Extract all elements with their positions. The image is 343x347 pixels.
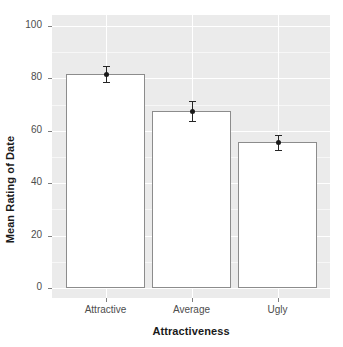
y-tick-mark (48, 288, 52, 289)
y-tick-mark (48, 236, 52, 237)
mean-point-marker (104, 72, 109, 77)
x-tick-label-ugly: Ugly (238, 304, 318, 315)
x-tick-mark (278, 298, 279, 302)
y-tick-label: 20 (16, 229, 42, 240)
x-tick-mark (106, 298, 107, 302)
bar-average[interactable] (152, 111, 231, 288)
error-bar-cap-lower (103, 82, 110, 83)
y-tick-mark (48, 183, 52, 184)
y-tick-label: 80 (16, 71, 42, 82)
y-axis-title-label: Mean Rating of Date (4, 136, 16, 244)
y-axis-title: Mean Rating of Date (0, 0, 20, 347)
bar-attractive[interactable] (66, 74, 145, 288)
y-tick-mark (48, 26, 52, 27)
x-tick-mark (192, 298, 193, 302)
plot-panel (52, 15, 330, 298)
y-tick-label: 0 (16, 281, 42, 292)
y-tick-mark (48, 78, 52, 79)
x-tick-label-attractive: Attractive (66, 304, 146, 315)
y-tick-label: 60 (16, 124, 42, 135)
error-bar-cap-upper (103, 66, 110, 67)
error-bar-cap-lower (189, 121, 196, 122)
x-axis-title: Attractiveness (52, 325, 330, 337)
bar-chart-figure: Mean Rating of Date 100806040200 Attract… (0, 0, 343, 347)
error-bar-cap-upper (275, 135, 282, 136)
bar-ugly[interactable] (238, 142, 317, 288)
error-bar-cap-lower (275, 150, 282, 151)
mean-point-marker (190, 109, 195, 114)
y-tick-label: 100 (16, 19, 42, 30)
x-tick-label-average: Average (152, 304, 232, 315)
error-bar-cap-upper (189, 101, 196, 102)
y-tick-label: 40 (16, 176, 42, 187)
mean-point-marker (276, 140, 281, 145)
y-tick-mark (48, 131, 52, 132)
